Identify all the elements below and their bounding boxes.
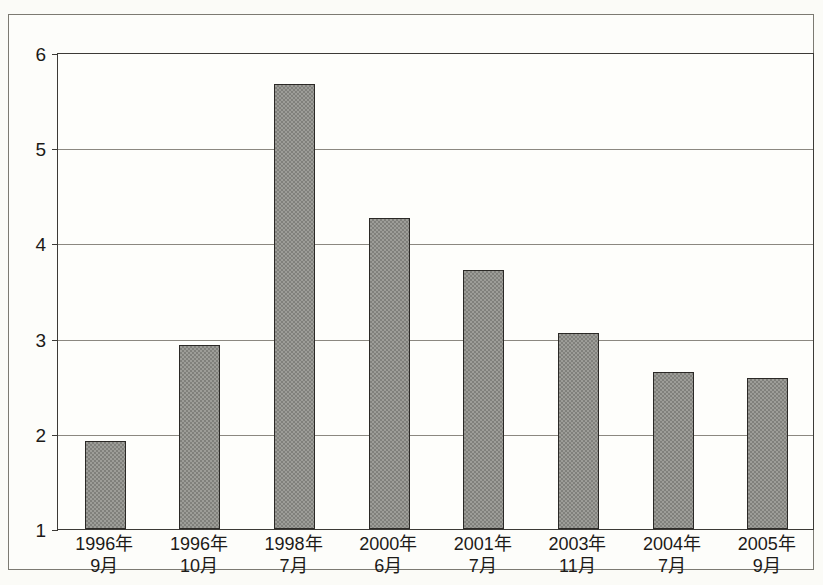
x-tick-label-year: 1996年 <box>75 534 133 554</box>
x-tick-label: 2001年7月 <box>436 534 531 577</box>
x-tick-label-month: 7月 <box>436 556 531 578</box>
gridline <box>58 149 813 150</box>
bar <box>747 378 788 529</box>
x-tick-label-year: 1996年 <box>170 534 228 554</box>
bar <box>463 270 504 529</box>
x-tick-label-month: 9月 <box>57 556 152 578</box>
x-tick-label: 1996年9月 <box>57 534 152 577</box>
x-tick-label: 2000年6月 <box>341 534 436 577</box>
x-tick-label-month: 9月 <box>719 556 814 578</box>
gridline <box>58 244 813 245</box>
y-tick-mark <box>52 435 58 436</box>
plot-area: 6 5 4 3 2 1 <box>57 53 814 530</box>
y-tick-label: 2 <box>35 426 46 445</box>
x-tick-label: 2003年11月 <box>530 534 625 577</box>
y-tick-label: 3 <box>35 331 46 350</box>
x-tick-label-year: 2001年 <box>454 534 512 554</box>
x-tick-label: 1998年7月 <box>246 534 341 577</box>
y-tick-label: 6 <box>35 45 46 64</box>
x-tick-label-month: 11月 <box>530 556 625 578</box>
bar <box>369 218 410 529</box>
x-tick-label-year: 1998年 <box>265 534 323 554</box>
y-tick-mark <box>52 149 58 150</box>
bar <box>274 84 315 529</box>
y-tick-mark <box>52 530 58 531</box>
gridline <box>58 435 813 436</box>
x-tick-label-month: 7月 <box>625 556 720 578</box>
x-tick-label: 2004年7月 <box>625 534 720 577</box>
y-tick-mark <box>52 244 58 245</box>
gridline <box>58 340 813 341</box>
bar <box>558 333 599 529</box>
x-tick-label: 2005年9月 <box>719 534 814 577</box>
x-tick-label-year: 2004年 <box>643 534 701 554</box>
y-tick-mark <box>52 340 58 341</box>
y-tick-mark <box>52 54 58 55</box>
x-tick-label-month: 7月 <box>246 556 341 578</box>
y-tick-label: 1 <box>35 521 46 540</box>
chart-title <box>0 0 823 9</box>
bar <box>179 345 220 529</box>
x-tick-label-year: 2005年 <box>738 534 796 554</box>
x-tick-label-year: 2000年 <box>359 534 417 554</box>
bar <box>653 372 694 529</box>
x-tick-label-year: 2003年 <box>548 534 606 554</box>
x-tick-label: 1996年10月 <box>152 534 247 577</box>
figure-frame: 6 5 4 3 2 1 1996年9月1996年10月1998年7月2000年6 <box>8 14 814 570</box>
x-tick-label-month: 10月 <box>152 556 247 578</box>
bar <box>85 441 126 529</box>
y-tick-label: 5 <box>35 140 46 159</box>
x-tick-label-month: 6月 <box>341 556 436 578</box>
y-tick-label: 4 <box>35 235 46 254</box>
